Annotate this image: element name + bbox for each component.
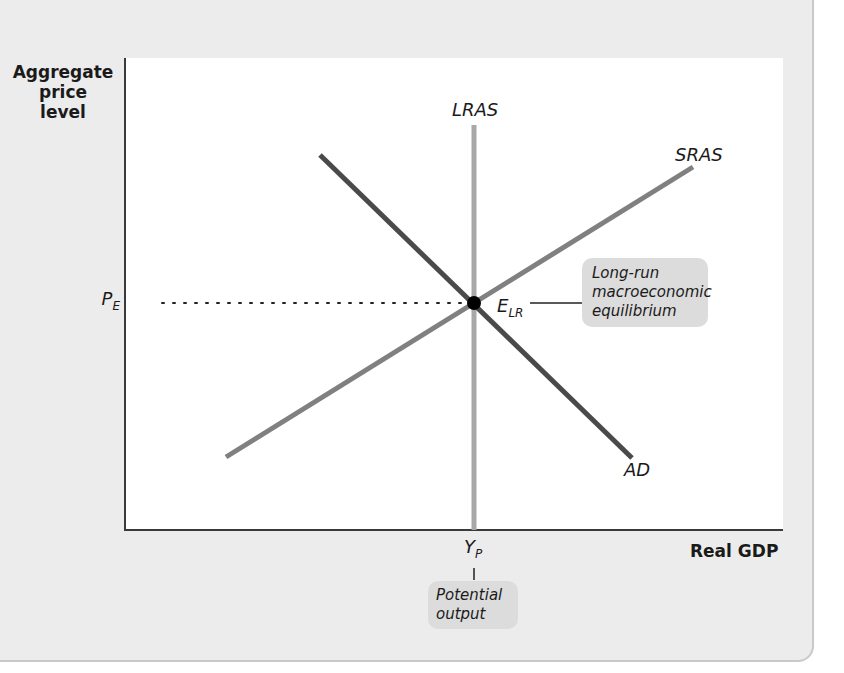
pe-main: P	[102, 288, 113, 309]
sras-label: SRAS	[675, 145, 723, 165]
equilibrium-callout: Long-run macroeconomic equilibrium	[582, 258, 708, 327]
callout-line: equilibrium	[592, 302, 698, 321]
equilibrium-point	[467, 296, 481, 310]
y-axis-title-line: level	[8, 102, 118, 122]
x-axis-title: Real GDP	[690, 541, 778, 561]
pe-sub: E	[112, 299, 120, 313]
elr-sub: LR	[508, 306, 523, 320]
callout-line: macroeconomic	[592, 283, 698, 302]
yp-label: YP	[464, 537, 482, 559]
pe-label: PE	[102, 289, 120, 311]
potential-output-callout: Potential output	[428, 581, 518, 629]
y-axis-title-line: Aggregate	[8, 62, 118, 82]
callout-line: output	[436, 605, 510, 624]
yp-sub: P	[475, 547, 482, 561]
y-axis-title: Aggregate price level	[8, 62, 118, 122]
callout-line: Long-run	[592, 264, 698, 283]
elr-label: ELR	[497, 296, 523, 318]
diagram-svg	[0, 0, 844, 673]
ad-label: AD	[624, 460, 650, 480]
callout-line: Potential	[436, 586, 510, 605]
y-axis-title-line: price	[8, 82, 118, 102]
yp-main: Y	[464, 536, 475, 557]
lras-label: LRAS	[452, 100, 498, 120]
elr-main: E	[497, 295, 508, 316]
